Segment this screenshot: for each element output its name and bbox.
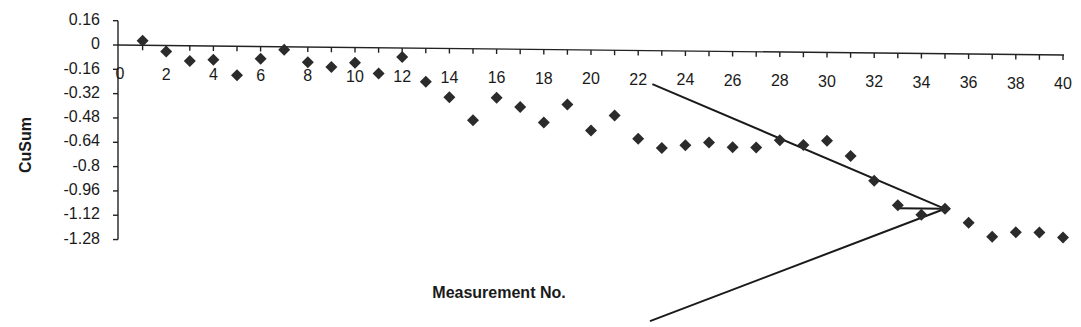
x-tick-label: 28 bbox=[771, 72, 789, 89]
y-tick-label: 0 bbox=[91, 35, 100, 52]
data-point-diamond-icon bbox=[325, 61, 337, 73]
y-axis: 0.160-0.16-0.32-0.48-0.64-0.8-0.96-1.12-… bbox=[64, 11, 118, 247]
data-point-diamond-icon bbox=[467, 114, 479, 126]
data-point-diamond-icon bbox=[750, 142, 762, 154]
x-tick-label: 8 bbox=[303, 67, 312, 84]
data-point-diamond-icon bbox=[255, 53, 267, 65]
data-point-diamond-icon bbox=[609, 110, 621, 122]
data-point-diamond-icon bbox=[963, 217, 975, 229]
x-tick-label: 38 bbox=[1007, 75, 1025, 92]
y-tick-label: -0.48 bbox=[64, 108, 101, 125]
data-point-diamond-icon bbox=[514, 101, 526, 113]
data-point-diamond-icon bbox=[160, 46, 172, 58]
data-point-diamond-icon bbox=[278, 44, 290, 56]
y-tick-label: -0.64 bbox=[64, 132, 101, 149]
y-tick-label: -1.28 bbox=[64, 230, 101, 247]
y-tick-label: -1.12 bbox=[64, 205, 101, 222]
x-tick-label: 34 bbox=[913, 74, 931, 91]
y-tick-label: -0.16 bbox=[64, 60, 101, 77]
data-point-diamond-icon bbox=[986, 231, 998, 243]
data-points bbox=[137, 35, 1069, 244]
data-point-diamond-icon bbox=[1033, 227, 1045, 239]
data-point-diamond-icon bbox=[561, 98, 573, 110]
x-tick-label: 12 bbox=[393, 68, 411, 85]
data-point-diamond-icon bbox=[585, 125, 597, 137]
data-point-diamond-icon bbox=[821, 135, 833, 147]
x-tick-label: 26 bbox=[724, 72, 742, 89]
x-tick-label: 2 bbox=[162, 66, 171, 83]
x-axis: 0246810121416182022242628303234363840 bbox=[116, 45, 1072, 92]
x-tick-label: 14 bbox=[441, 69, 459, 86]
x-tick-label: 6 bbox=[256, 67, 265, 84]
data-point-diamond-icon bbox=[845, 150, 857, 162]
data-point-diamond-icon bbox=[1057, 231, 1069, 243]
data-point-diamond-icon bbox=[420, 76, 432, 88]
cusum-chart: CuSum Measurement No. 0.160-0.16-0.32-0.… bbox=[0, 0, 1081, 327]
x-tick-label: 40 bbox=[1054, 75, 1072, 92]
x-tick-label: 4 bbox=[209, 66, 218, 83]
data-point-diamond-icon bbox=[1010, 226, 1022, 238]
x-tick-label: 10 bbox=[346, 68, 364, 85]
data-point-diamond-icon bbox=[703, 136, 715, 148]
x-axis-title: Measurement No. bbox=[432, 284, 565, 301]
v-mask-lower-arm bbox=[650, 209, 945, 321]
data-point-diamond-icon bbox=[538, 116, 550, 128]
x-tick-label: 18 bbox=[535, 70, 553, 87]
x-tick-label: 0 bbox=[116, 65, 125, 82]
data-point-diamond-icon bbox=[939, 203, 951, 215]
data-point-diamond-icon bbox=[396, 51, 408, 63]
x-tick-label: 36 bbox=[960, 74, 978, 91]
data-point-diamond-icon bbox=[231, 69, 243, 81]
data-point-diamond-icon bbox=[443, 91, 455, 103]
x-tick-label: 32 bbox=[865, 73, 883, 90]
x-tick-label: 22 bbox=[629, 71, 647, 88]
y-axis-title: CuSum bbox=[17, 117, 34, 173]
data-point-diamond-icon bbox=[373, 68, 385, 80]
x-tick-label: 24 bbox=[677, 71, 695, 88]
data-point-diamond-icon bbox=[656, 142, 668, 154]
x-tick-label: 16 bbox=[488, 69, 506, 86]
data-point-diamond-icon bbox=[892, 199, 904, 211]
y-tick-label: -0.8 bbox=[72, 157, 100, 174]
v-mask-upper-arm bbox=[652, 84, 945, 209]
data-point-diamond-icon bbox=[727, 141, 739, 153]
data-point-diamond-icon bbox=[491, 92, 503, 104]
data-point-diamond-icon bbox=[632, 133, 644, 145]
y-tick-label: -0.96 bbox=[64, 181, 101, 198]
y-tick-label: 0.16 bbox=[69, 11, 100, 28]
data-point-diamond-icon bbox=[184, 55, 196, 67]
data-point-diamond-icon bbox=[207, 54, 219, 66]
x-tick-label: 20 bbox=[582, 70, 600, 87]
y-tick-label: -0.32 bbox=[64, 84, 101, 101]
data-point-diamond-icon bbox=[679, 139, 691, 151]
x-tick-label: 30 bbox=[818, 73, 836, 90]
